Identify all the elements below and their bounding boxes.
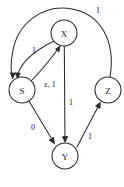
edge-s-to-y: 0	[29, 101, 55, 144]
edge-x-to-y-arrowhead	[62, 136, 68, 143]
edge-y-to-z: 1	[77, 102, 101, 147]
edge-label-x-to-y: 1	[69, 98, 73, 107]
edge-label-y-to-z: 1	[88, 132, 92, 141]
graph-figure: 1 1 ε, 1 1 0 1	[0, 0, 124, 187]
node-z[interactable]: Z	[95, 77, 121, 103]
node-y-label: Y	[62, 152, 69, 162]
node-z-label: Z	[105, 86, 111, 96]
edge-label-s-to-x: ε, 1	[44, 80, 55, 89]
node-x[interactable]: X	[51, 20, 77, 46]
edge-x-to-y-path	[64, 46, 65, 141]
edge-label-s-to-y: 0	[31, 123, 35, 132]
edge-label-x-to-s: 1	[32, 46, 36, 55]
node-y[interactable]: Y	[52, 143, 78, 169]
node-x-label: X	[61, 29, 68, 39]
directed-graph-canvas: 1 1 ε, 1 1 0 1	[0, 0, 124, 187]
edge-label-z-to-s: 1	[96, 6, 100, 15]
edge-x-to-y: 1	[62, 46, 73, 143]
edge-x-to-s: 1	[14, 41, 54, 80]
edge-s-to-y-path	[29, 101, 54, 142]
node-s[interactable]: S	[9, 77, 35, 103]
edge-y-to-z-path	[77, 104, 100, 147]
node-s-label: S	[19, 86, 24, 96]
edge-s-to-y-arrowhead	[49, 137, 55, 145]
